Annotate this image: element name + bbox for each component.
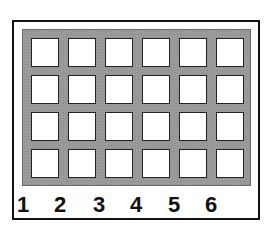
cell-r1-c2	[68, 38, 96, 67]
cell-r1-c1	[31, 38, 59, 67]
cell-r3-c1	[31, 112, 59, 141]
cell-r1-c4	[142, 38, 170, 67]
cell-r4-c5	[179, 149, 207, 178]
column-label-3: 3	[93, 192, 105, 218]
cell-r4-c1	[31, 149, 59, 178]
cell-r4-c2	[68, 149, 96, 178]
cell-r4-c6	[216, 149, 244, 178]
cell-r2-c4	[142, 75, 170, 104]
panel-frame: 1 2 3 4 5 6	[12, 20, 260, 220]
cell-r1-c3	[105, 38, 133, 67]
column-label-2: 2	[54, 192, 66, 218]
cell-r2-c5	[179, 75, 207, 104]
column-label-1: 1	[17, 192, 29, 218]
column-label-6: 6	[205, 192, 217, 218]
cell-r2-c2	[68, 75, 96, 104]
column-label-4: 4	[130, 192, 142, 218]
cell-r1-c5	[179, 38, 207, 67]
cell-r3-c5	[179, 112, 207, 141]
cell-r3-c6	[216, 112, 244, 141]
cell-r1-c6	[216, 38, 244, 67]
cell-r3-c2	[68, 112, 96, 141]
column-label-5: 5	[168, 192, 180, 218]
cell-r3-c4	[142, 112, 170, 141]
cell-r2-c3	[105, 75, 133, 104]
cell-r4-c4	[142, 149, 170, 178]
cell-r3-c3	[105, 112, 133, 141]
cell-grid	[22, 29, 251, 186]
cell-r2-c6	[216, 75, 244, 104]
column-labels: 1 2 3 4 5 6	[14, 192, 258, 218]
cell-r2-c1	[31, 75, 59, 104]
cell-r4-c3	[105, 149, 133, 178]
